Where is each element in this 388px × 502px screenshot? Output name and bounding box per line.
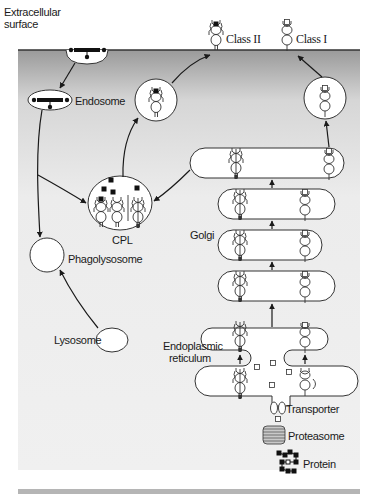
golgi-cisterna-3	[218, 230, 322, 262]
golgi-cisterna-4	[218, 271, 335, 303]
label-cpl: CPL	[112, 234, 133, 246]
label-lysosome: Lysosome	[54, 334, 101, 346]
label-class1: Class I	[296, 33, 327, 45]
label-protein: Protein	[303, 458, 336, 470]
label-er-line1: Endoplasmic	[163, 340, 223, 352]
proteasome	[263, 426, 285, 444]
label-extracellular-line1: Extracellular	[4, 6, 61, 18]
cpl-compartment	[88, 176, 152, 230]
endocytic-vesicle	[66, 48, 108, 64]
label-transporter: Transporter	[286, 403, 339, 415]
protein-chain	[277, 450, 298, 473]
antigen-processing-diagram: Extracellular surface Class II Class I E…	[0, 0, 388, 502]
surface-class1-molecule	[282, 20, 292, 52]
class2-transport-vesicle	[135, 79, 177, 121]
label-extracellular-line2: surface	[4, 18, 38, 30]
label-er-line2: reticulum	[169, 352, 211, 364]
label-class2: Class II	[226, 33, 261, 45]
class1-transport-vesicle	[304, 77, 346, 119]
label-endosome: Endosome	[75, 95, 125, 107]
surface-class2-molecule	[209, 20, 224, 50]
caption-rule	[18, 489, 360, 494]
endosome	[28, 90, 72, 110]
phagolysosome	[30, 238, 64, 272]
diagram-canvas	[0, 0, 388, 502]
golgi-cisterna-2	[218, 189, 335, 221]
golgi-cisterna-1	[190, 148, 344, 180]
label-golgi: Golgi	[190, 229, 214, 241]
label-phagolysosome: Phagolysosome	[68, 253, 142, 265]
label-proteasome: Proteasome	[288, 430, 344, 442]
